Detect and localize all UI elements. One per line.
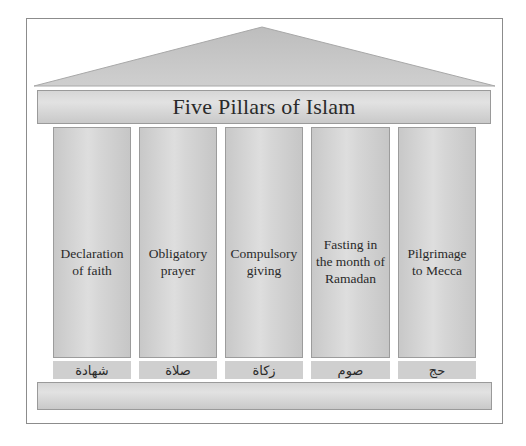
pillar-obligatory-prayer: Obligatory prayer bbox=[139, 127, 217, 358]
diagram-title: Five Pillars of Islam bbox=[172, 94, 355, 120]
arabic-text: زكاة bbox=[252, 363, 275, 378]
temple-roof bbox=[33, 26, 496, 87]
pillar-declaration-of-faith: Declaration of faith bbox=[53, 127, 131, 358]
pillar-label: Declaration of faith bbox=[57, 245, 128, 279]
pillar-label: Obligatory prayer bbox=[145, 245, 212, 279]
arabic-text: شهادة bbox=[75, 363, 108, 378]
title-bar: Five Pillars of Islam bbox=[37, 90, 491, 124]
pillar-label: Compulsory giving bbox=[227, 245, 302, 279]
pillar-label: Pilgrimage to Mecca bbox=[403, 245, 470, 279]
arabic-label-hajj: حج bbox=[398, 361, 476, 379]
pillar-compulsory-giving: Compulsory giving bbox=[225, 127, 303, 358]
pillar-fasting: Fasting in the month of Ramadan bbox=[311, 127, 390, 358]
arabic-text: صلاة bbox=[165, 363, 191, 378]
pillar-pilgrimage: Pilgrimage to Mecca bbox=[398, 127, 476, 358]
arabic-label-salat: صلاة bbox=[139, 361, 217, 379]
arabic-text: حج bbox=[429, 363, 445, 378]
arabic-label-sawm: صوم bbox=[311, 361, 390, 379]
pillar-label: Fasting in the month of Ramadan bbox=[312, 236, 389, 287]
arabic-text: صوم bbox=[338, 363, 364, 378]
arabic-label-shahada: شهادة bbox=[53, 361, 131, 379]
temple-base bbox=[37, 382, 492, 410]
arabic-label-zakat: زكاة bbox=[225, 361, 303, 379]
